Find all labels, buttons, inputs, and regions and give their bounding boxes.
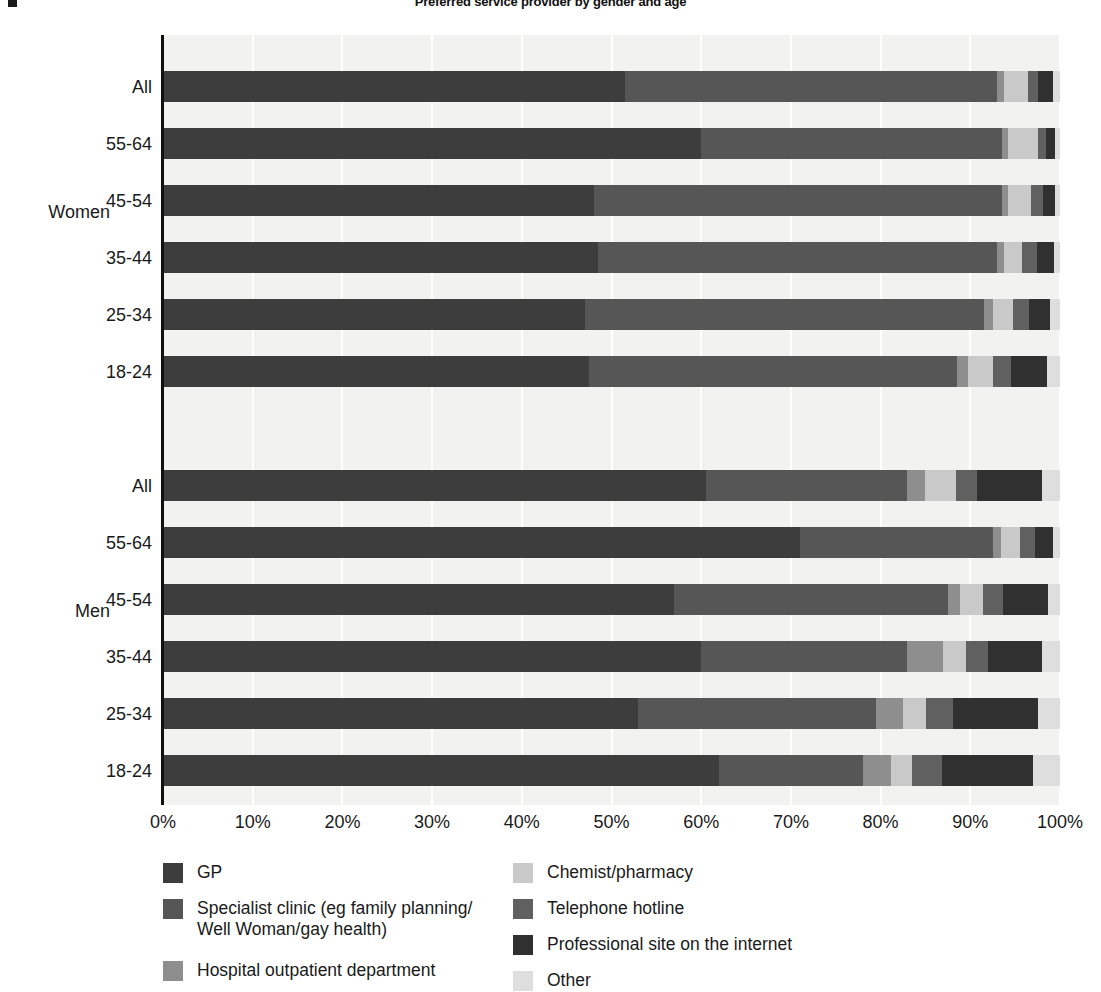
bar-segment-other: [1042, 641, 1060, 672]
bar-segment-telephone-hotline: [912, 755, 942, 786]
bar-segment-other: [1055, 185, 1059, 216]
bar-row: [163, 128, 1060, 159]
bar-row: [163, 641, 1060, 672]
bar-row: [163, 470, 1060, 501]
legend-item-internet[interactable]: Professional site on the internet: [513, 934, 792, 955]
y-axis-line: [161, 35, 164, 805]
y-axis-tick-label: All: [0, 78, 152, 96]
bar-segment-hospital-outpatient-department: [993, 527, 1001, 558]
bar-segment-specialist-clinic-eg-family-planning-well-woman-gay-health: [706, 470, 908, 501]
x-axis-tick-label: 40%: [477, 812, 567, 833]
bar-segment-telephone-hotline: [983, 584, 1004, 615]
bar-segment-telephone-hotline: [926, 698, 953, 729]
bar-segment-chemist-pharmacy: [1001, 527, 1021, 558]
bar-segment-professional-site-on-the-internet: [1003, 584, 1048, 615]
bar-segment-chemist-pharmacy: [943, 641, 965, 672]
bar-segment-other: [1053, 71, 1060, 102]
legend-item-telephone[interactable]: Telephone hotline: [513, 898, 684, 919]
bar-segment-other: [1047, 356, 1060, 387]
bar-segment-chemist-pharmacy: [1008, 128, 1038, 159]
bar-segment-other: [1038, 698, 1060, 729]
bar-segment-telephone-hotline: [1020, 527, 1034, 558]
bar-segment-chemist-pharmacy: [960, 584, 982, 615]
group-label-women: Women: [0, 203, 110, 221]
x-axis-tick-label: 50%: [567, 812, 657, 833]
legend-swatch-specialist: [163, 899, 183, 919]
x-axis-tick-label: 90%: [925, 812, 1015, 833]
bar-segment-gp: [163, 755, 719, 786]
group-label-men: Men: [0, 602, 110, 620]
bar-segment-chemist-pharmacy: [993, 299, 1014, 330]
legend-item-gp[interactable]: GP: [163, 862, 222, 883]
bar-segment-hospital-outpatient-department: [997, 71, 1004, 102]
bar-segment-gp: [163, 185, 594, 216]
bar-segment-hospital-outpatient-department: [907, 470, 925, 501]
x-axis-tick-label: 100%: [1015, 812, 1101, 833]
bar-segment-specialist-clinic-eg-family-planning-well-woman-gay-health: [585, 299, 984, 330]
bar-segment-professional-site-on-the-internet: [1043, 185, 1056, 216]
legend-item-specialist[interactable]: Specialist clinic (eg family planning/ W…: [163, 898, 472, 939]
x-axis-tick-label: 10%: [208, 812, 298, 833]
legend-swatch-hospital: [163, 961, 183, 981]
legend-label-other: Other: [547, 970, 591, 991]
bar-segment-professional-site-on-the-internet: [953, 698, 1038, 729]
legend-label-specialist: Specialist clinic (eg family planning/ W…: [197, 898, 472, 939]
legend-swatch-gp: [163, 863, 183, 883]
bar-segment-professional-site-on-the-internet: [977, 470, 1042, 501]
bar-segment-specialist-clinic-eg-family-planning-well-woman-gay-health: [625, 71, 997, 102]
bar-row: [163, 755, 1060, 786]
y-axis-tick-label: All: [0, 477, 152, 495]
bar-segment-specialist-clinic-eg-family-planning-well-woman-gay-health: [598, 242, 997, 273]
legend-item-other[interactable]: Other: [513, 970, 591, 991]
bar-segment-professional-site-on-the-internet: [1046, 128, 1055, 159]
bar-segment-gp: [163, 356, 589, 387]
bar-segment-gp: [163, 242, 598, 273]
legend-label-chemist: Chemist/pharmacy: [547, 862, 693, 883]
x-axis-tick-label: 0%: [118, 812, 208, 833]
page-title: Preferred service provider by gender and…: [0, 0, 1101, 9]
bar-segment-professional-site-on-the-internet: [988, 641, 1042, 672]
bar-segment-professional-site-on-the-internet: [1035, 527, 1053, 558]
bar-segment-chemist-pharmacy: [925, 470, 955, 501]
legend-label-telephone: Telephone hotline: [547, 898, 684, 919]
legend-swatch-internet: [513, 935, 533, 955]
legend-label-gp: GP: [197, 862, 222, 883]
bar-segment-other: [1054, 242, 1060, 273]
plot-area: [163, 35, 1060, 805]
bar-segment-gp: [163, 470, 706, 501]
bar-segment-professional-site-on-the-internet: [1037, 242, 1054, 273]
bar-segment-chemist-pharmacy: [1004, 71, 1027, 102]
bar-segment-other: [1055, 128, 1060, 159]
bar-segment-gp: [163, 698, 638, 729]
bar-segment-hospital-outpatient-department: [907, 641, 943, 672]
bar-segment-specialist-clinic-eg-family-planning-well-woman-gay-health: [674, 584, 948, 615]
bar-segment-hospital-outpatient-department: [876, 698, 903, 729]
bar-segment-hospital-outpatient-department: [984, 299, 993, 330]
bar-segment-chemist-pharmacy: [1008, 185, 1031, 216]
x-axis-tick-label: 70%: [746, 812, 836, 833]
bar-segment-specialist-clinic-eg-family-planning-well-woman-gay-health: [589, 356, 957, 387]
legend-item-hospital[interactable]: Hospital outpatient department: [163, 960, 435, 981]
y-axis-tick-label: 25-34: [0, 306, 152, 324]
bar-segment-chemist-pharmacy: [1004, 242, 1022, 273]
y-axis-tick-label: 18-24: [0, 762, 152, 780]
bar-segment-telephone-hotline: [1031, 185, 1043, 216]
bar-segment-professional-site-on-the-internet: [1038, 71, 1053, 102]
legend-item-chemist[interactable]: Chemist/pharmacy: [513, 862, 693, 883]
y-axis-tick-label: 35-44: [0, 648, 152, 666]
bar-segment-professional-site-on-the-internet: [1011, 356, 1047, 387]
y-axis-tick-label: 55-64: [0, 534, 152, 552]
bar-segment-gp: [163, 71, 625, 102]
bar-series-container: [163, 35, 1060, 805]
bar-segment-other: [1050, 299, 1060, 330]
bar-segment-specialist-clinic-eg-family-planning-well-woman-gay-health: [701, 128, 1001, 159]
bar-segment-other: [1048, 584, 1060, 615]
x-axis-tick-label: 20%: [297, 812, 387, 833]
legend-label-hospital: Hospital outpatient department: [197, 960, 435, 981]
x-axis-tick-label: 30%: [387, 812, 477, 833]
x-axis-tick-label: 80%: [836, 812, 926, 833]
bar-row: [163, 71, 1060, 102]
y-axis-tick-label: 18-24: [0, 363, 152, 381]
bar-row: [163, 356, 1060, 387]
bar-segment-professional-site-on-the-internet: [1029, 299, 1050, 330]
